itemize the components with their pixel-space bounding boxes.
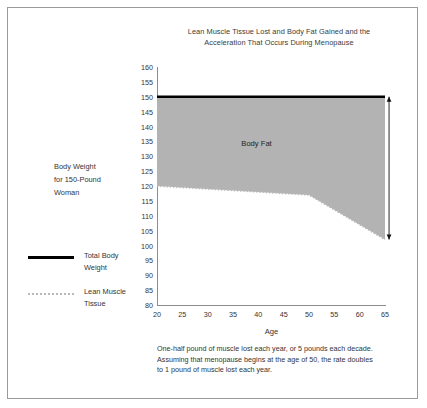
x-axis-tick-25: 25 [169, 310, 195, 319]
x-axis-tick-65: 65 [372, 310, 398, 319]
y-axis-tick-160: 160 [123, 63, 153, 72]
chart-title-line-1: Lean Muscle Tissue Lost and Body Fat Gai… [150, 26, 408, 37]
x-axis-tick-35: 35 [220, 310, 246, 319]
y-axis-tick-80: 80 [123, 301, 153, 310]
chart-figure: Lean Muscle Tissue Lost and Body Fat Gai… [0, 0, 427, 408]
x-axis-tick-40: 40 [245, 310, 271, 319]
y-axis-tick-150: 150 [123, 92, 153, 101]
chart-title-line-2: Acceleration That Occurs During Menopaus… [150, 37, 408, 48]
y-axis-tick-120: 120 [123, 182, 153, 191]
x-axis-line [157, 305, 386, 306]
chart-plot-svg [157, 67, 385, 305]
y-axis-tick-130: 130 [123, 152, 153, 161]
chart-title: Lean Muscle Tissue Lost and Body Fat Gai… [150, 26, 408, 48]
y-axis-tick-100: 100 [123, 241, 153, 250]
legend-swatch-dotted-line [28, 293, 74, 295]
y-axis-tick-135: 135 [123, 137, 153, 146]
plot-area [157, 67, 385, 305]
x-axis-tick-labels: 20253035404550556065 [157, 310, 386, 322]
legend-swatch-solid-line [28, 256, 74, 259]
body-fat-area [157, 97, 385, 240]
y-axis-tick-110: 110 [123, 211, 153, 220]
y-axis-tick-155: 155 [123, 77, 153, 86]
x-axis-tick-60: 60 [347, 310, 373, 319]
x-axis-tick-55: 55 [321, 310, 347, 319]
y-axis-tick-90: 90 [123, 271, 153, 280]
x-axis-title: Age [157, 327, 386, 336]
x-axis-tick-20: 20 [144, 310, 170, 319]
y-axis-tick-115: 115 [123, 196, 153, 205]
y-axis-tick-95: 95 [123, 256, 153, 265]
y-axis-tick-labels: 8085909510010511011512012513013514014515… [122, 67, 153, 306]
chart-footnote: One-half pound of muscle lost each year,… [157, 344, 407, 376]
footnote-line-2: Assuming that menopause begins at the ag… [157, 355, 407, 366]
y-axis-tick-85: 85 [123, 286, 153, 295]
x-axis-tick-50: 50 [296, 310, 322, 319]
y-axis-tick-140: 140 [123, 122, 153, 131]
x-axis-tick-45: 45 [271, 310, 297, 319]
body-fat-region-label: Body Fat [241, 139, 271, 148]
footnote-line-1: One-half pound of muscle lost each year,… [157, 344, 407, 355]
x-axis-tick-30: 30 [195, 310, 221, 319]
footnote-line-3: to 1 pound of muscle lost each year. [157, 365, 407, 376]
y-axis-tick-105: 105 [123, 226, 153, 235]
y-axis-tick-145: 145 [123, 107, 153, 116]
y-axis-tick-125: 125 [123, 167, 153, 176]
